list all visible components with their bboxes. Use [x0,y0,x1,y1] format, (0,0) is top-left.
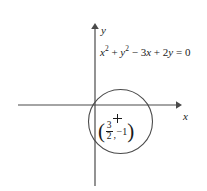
x-coordinate-fraction: 3 2 [106,121,113,143]
y-axis-arrowhead [91,23,99,29]
equation-term1-exponent: 2 [105,44,109,53]
y-coordinate-value: −1 [117,127,128,137]
equation-annotation: x2 + y2 − 3x + 2y = 0 [100,47,190,58]
equation-equals-sign: = [176,46,182,58]
equation-right-hand-side: 0 [185,46,191,58]
equation-term4-variable: y [168,46,173,58]
equation-term2-exponent: 2 [125,44,129,53]
circle-graph-figure: y x x2 + y2 − 3x + 2y = 0 ( 3 2 , −1 ) [0,0,207,191]
center-coordinates-label: ( 3 2 , −1 ) [98,121,134,143]
x-axis-label: x [183,111,188,122]
close-paren: ) [127,124,134,139]
equation-plus-2: + [154,46,160,58]
open-paren: ( [98,124,105,139]
equation-term3-variable: x [146,46,151,58]
equation-plus-1: + [111,46,117,58]
equation-minus: − [132,46,138,58]
x-axis-arrowhead [176,101,182,109]
y-axis-label: y [101,25,106,36]
coordinate-separator-comma: , [114,130,117,140]
fraction-numerator: 3 [106,121,113,131]
fraction-denominator: 2 [106,132,113,142]
